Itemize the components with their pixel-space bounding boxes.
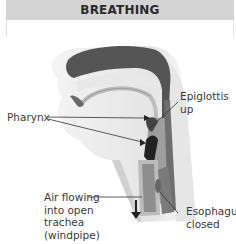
label-air-flowing-trachea: Air flowing into open trachea (windpipe) bbox=[44, 191, 100, 241]
label-pharynx: Pharynx bbox=[7, 111, 50, 124]
label-esophagus-closed: Esophagus closed bbox=[186, 205, 236, 230]
label-epiglottis-up: Epiglottis up bbox=[180, 90, 229, 115]
